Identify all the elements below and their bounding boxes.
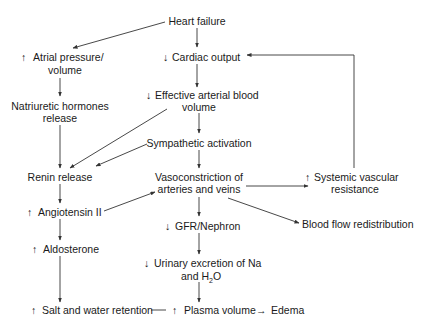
- node-label: Cardiac output: [172, 51, 240, 63]
- decrease-arrow-icon: ↓: [144, 257, 149, 269]
- edge-svr-to-cardiac-output: [247, 55, 354, 168]
- node-label-line2: release: [43, 112, 78, 124]
- node-effective-volume: ↓ Effective arterial blood volume: [146, 89, 259, 113]
- right-arrow-icon: →: [256, 304, 267, 316]
- node-label-line1: Effective arterial blood: [155, 89, 259, 101]
- node-vasoconstriction: Vasoconstriction of arteries and veins: [155, 171, 243, 195]
- node-sympathetic: Sympathetic activation: [146, 137, 251, 149]
- label-text: and H: [181, 270, 209, 282]
- node-label: Blood flow redistribution: [302, 218, 414, 230]
- node-label-line2: and H2O: [181, 270, 221, 284]
- edge-heart-failure-to-atrial-pressure: [73, 22, 165, 48]
- decrease-arrow-icon: ↓: [165, 220, 170, 232]
- node-label: Edema: [271, 304, 304, 316]
- node-aldosterone: ↑ Aldosterone: [32, 243, 99, 255]
- node-label: Renin release: [28, 171, 93, 183]
- node-gfr: ↓ GFR/Nephron: [165, 220, 241, 232]
- node-label: Heart failure: [168, 15, 225, 27]
- node-heart-failure: Heart failure: [168, 15, 225, 27]
- node-blood-flow: Blood flow redistribution: [302, 218, 414, 230]
- node-label: Aldosterone: [43, 243, 99, 255]
- node-urinary: ↓ Urinary excretion of Na and H2O: [144, 257, 262, 284]
- node-label: Sympathetic activation: [146, 137, 251, 149]
- increase-arrow-icon: ↑: [172, 304, 177, 316]
- node-label-line2: volume: [182, 101, 216, 113]
- node-angiotensin: ↑ Angiotensin II: [27, 206, 102, 218]
- node-salt-water: ↑ Salt and water retention: [31, 304, 153, 316]
- node-atrial-pressure: ↑ Atrial pressure/ volume: [21, 51, 104, 76]
- node-label: Salt and water retention: [42, 304, 153, 316]
- node-label-line1: Urinary excretion of Na: [154, 257, 262, 269]
- node-natriuretic: Natriuretic hormones release: [11, 100, 108, 124]
- node-label: Angiotensin II: [38, 206, 102, 218]
- node-label-line1: Vasoconstriction of: [155, 171, 243, 183]
- increase-arrow-icon: ↑: [27, 206, 32, 218]
- edge-angiotensin-to-vasoconstriction: [104, 192, 155, 211]
- node-label: Plasma volume: [184, 304, 256, 316]
- node-plasma-volume: ↑ Plasma volume: [172, 304, 256, 316]
- node-label-line2: arteries and veins: [158, 183, 241, 195]
- node-label-line2: volume: [48, 64, 82, 76]
- node-edema: → Edema: [256, 304, 304, 316]
- decrease-arrow-icon: ↓: [163, 51, 168, 63]
- node-label-line2: resistance: [331, 183, 379, 195]
- node-label-line1: Systemic vascular: [314, 171, 399, 183]
- increase-arrow-icon: ↑: [31, 304, 36, 316]
- increase-arrow-icon: ↑: [305, 171, 310, 183]
- heart-failure-flowchart: Heart failure ↓ Cardiac output ↑ Atrial …: [0, 0, 425, 329]
- node-cardiac-output: ↓ Cardiac output: [163, 51, 240, 63]
- decrease-arrow-icon: ↓: [146, 89, 151, 101]
- increase-arrow-icon: ↑: [32, 243, 37, 255]
- node-renin: Renin release: [28, 171, 93, 183]
- node-label-line1: Atrial pressure/: [33, 51, 104, 63]
- node-svr: ↑ Systemic vascular resistance: [305, 171, 399, 195]
- node-label-line1: Natriuretic hormones: [11, 100, 108, 112]
- increase-arrow-icon: ↑: [21, 51, 26, 63]
- label-suffix: O: [213, 270, 221, 282]
- node-label: GFR/Nephron: [175, 220, 241, 232]
